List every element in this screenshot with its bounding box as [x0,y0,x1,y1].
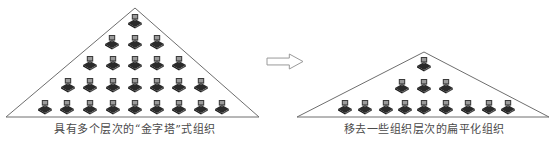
computer-icon [501,100,515,115]
computer-icon [395,79,409,94]
computer-icon [417,79,431,94]
computer-icon [38,100,52,115]
computer-icon [150,100,164,115]
computer-icon [60,100,74,115]
computer-icon [150,35,164,50]
computer-icon [128,78,142,93]
right-arrow-icon [267,54,303,69]
computer-icon [150,78,164,93]
computer-icon [106,56,120,71]
computer-icon [417,100,431,115]
computer-icon [128,56,142,71]
computer-icon [417,57,431,72]
computer-icon [172,56,186,71]
computer-icon [172,78,186,93]
computer-icon [194,78,208,93]
computer-icon [482,100,496,115]
computer-icon [106,78,120,93]
computer-icon [338,100,352,115]
computer-icon [105,35,119,50]
computer-icon [128,14,142,29]
flat-organization [297,52,549,117]
computer-icon [379,100,393,115]
computer-icon [83,78,97,93]
computer-icon [439,79,453,94]
computer-icon [128,100,142,115]
computer-icon [128,35,142,50]
pyramid-organization [6,8,259,117]
pyramid-organization-caption: 具有多个层次的“金字塔”式组织 [54,120,216,136]
computer-icon [83,100,97,115]
computer-icon [358,100,372,115]
computer-icon [194,100,208,115]
computer-icon [83,56,97,71]
flat-organization-caption: 移去一些组织层次的扁平化组织 [344,120,505,136]
computer-icon [61,78,75,93]
computer-icon [215,100,229,115]
computer-icon [461,100,475,115]
org-structure-diagram: 具有多个层次的“金字塔”式组织 移去一些组织层次的扁平化组织 [0,0,559,144]
computer-icon [439,100,453,115]
right-arrow-icon [267,54,303,69]
computer-icon [172,100,186,115]
computer-icon [106,100,120,115]
computer-icon [398,100,412,115]
computer-icon [150,56,164,71]
